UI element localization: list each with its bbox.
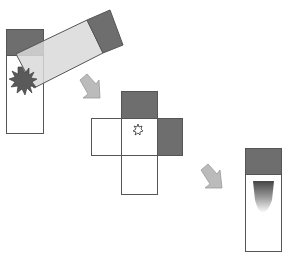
cross-net	[92, 92, 183, 195]
net-left	[92, 119, 122, 156]
arrow-icon-2	[201, 164, 222, 188]
net-bottom	[122, 156, 158, 195]
net-center	[122, 119, 158, 156]
tube-final	[246, 149, 282, 252]
diagram-canvas	[0, 0, 292, 260]
net-right	[158, 119, 183, 156]
final-tube-cap	[246, 149, 282, 175]
net-top	[122, 92, 158, 119]
arrow-icon-1	[80, 74, 100, 98]
